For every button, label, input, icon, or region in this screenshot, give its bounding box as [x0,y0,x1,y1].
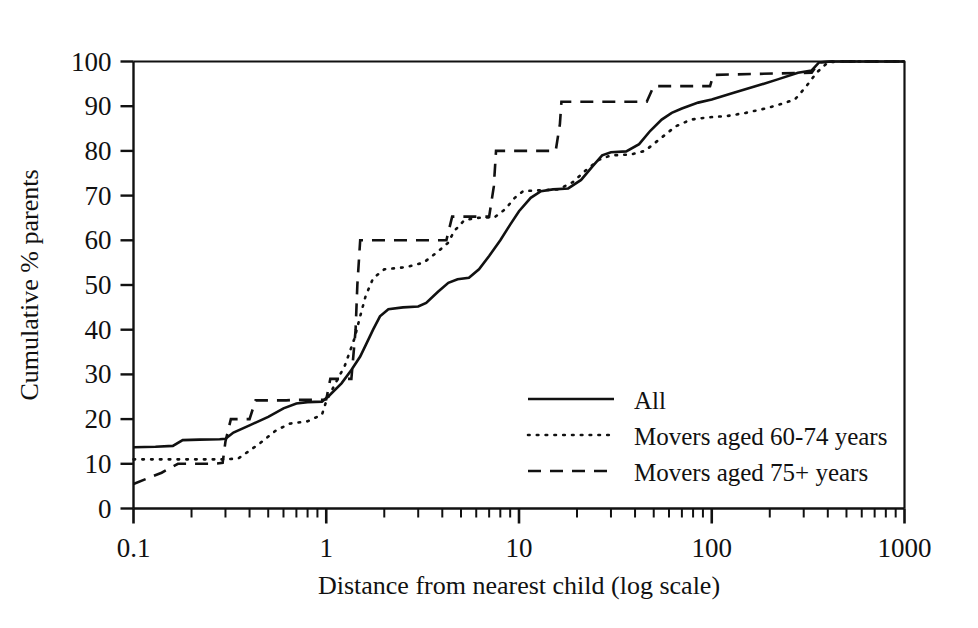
x-tick-label: 1 [320,533,334,563]
y-axis-title: Cumulative % parents [15,169,44,400]
legend-label: Movers aged 75+ years [634,459,868,486]
y-tick-label: 60 [85,225,112,255]
x-tick-label: 1000 [878,533,932,563]
y-tick-label: 10 [85,449,112,479]
x-axis-title: Distance from nearest child (log scale) [318,571,720,600]
y-tick-label: 100 [71,47,112,77]
figure-container: 0.11101001000 0102030405060708090100 Dis… [0,0,978,628]
cumulative-distribution-chart: 0.11101001000 0102030405060708090100 Dis… [0,0,978,628]
y-tick-label: 0 [98,494,112,524]
x-tick-label: 10 [506,533,533,563]
y-tick-label: 70 [85,181,112,211]
legend-label: Movers aged 60-74 years [634,423,887,450]
x-tick-label: 100 [692,533,733,563]
y-tick-label: 90 [85,91,112,121]
y-tick-label: 30 [85,359,112,389]
y-tick-label: 40 [85,315,112,345]
y-tick-label: 80 [85,136,112,166]
legend-label: All [634,387,666,414]
y-tick-label: 20 [85,404,112,434]
x-tick-label: 0.1 [117,533,151,563]
y-tick-label: 50 [85,270,112,300]
